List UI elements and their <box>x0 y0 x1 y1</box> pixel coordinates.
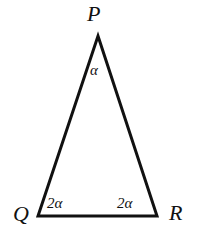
geometry-figure: P Q R α 2α 2α <box>0 0 201 247</box>
angle-label-apex: α <box>90 63 98 78</box>
vertex-label-q: Q <box>13 203 29 225</box>
angle-label-bottom-right: 2α <box>117 196 132 211</box>
vertex-label-r: R <box>169 202 182 224</box>
angle-label-bottom-left: 2α <box>47 196 62 211</box>
vertex-label-p: P <box>87 3 100 25</box>
